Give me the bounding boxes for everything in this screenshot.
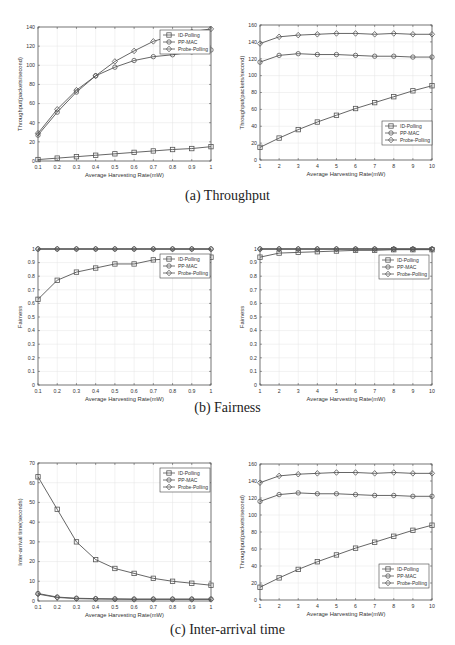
y-tick-label: 0.8 bbox=[28, 273, 35, 279]
x-tick-label: 1 bbox=[259, 603, 262, 609]
y-tick-label: 0.1 bbox=[28, 368, 35, 374]
y-tick-label: 100 bbox=[248, 72, 257, 78]
x-tick-label: 2 bbox=[278, 388, 281, 394]
x-tick-label: 0.6 bbox=[131, 388, 138, 394]
x-tick-label: 4 bbox=[316, 388, 319, 394]
x-tick-label: 3 bbox=[297, 163, 300, 169]
legend-label: ID-Polling bbox=[397, 257, 419, 263]
chart-a-right: 12345678910020406080100120140160Average … bbox=[239, 22, 435, 177]
legend-label: Probe-Polling bbox=[400, 137, 430, 143]
x-tick-label: 7 bbox=[373, 163, 376, 169]
x-tick-label: 7 bbox=[373, 388, 376, 394]
y-tick-label: 160 bbox=[248, 22, 257, 28]
y-tick-label: 0.9 bbox=[250, 259, 257, 265]
x-tick-label: 1 bbox=[259, 163, 262, 169]
legend-label: PP-MAC bbox=[178, 263, 198, 269]
chart-b-left: 0.10.20.30.40.50.60.70.80.9100.10.20.30.… bbox=[17, 246, 214, 402]
x-tick-label: 0.3 bbox=[73, 604, 80, 610]
x-tick-label: 0.5 bbox=[111, 388, 118, 394]
y-tick-label: 120 bbox=[248, 56, 257, 62]
y-tick-label: 0.7 bbox=[28, 287, 35, 293]
x-tick-label: 3 bbox=[297, 603, 300, 609]
x-tick-label: 8 bbox=[392, 388, 395, 394]
x-tick-label: 6 bbox=[354, 603, 357, 609]
y-tick-label: 30 bbox=[29, 539, 35, 545]
x-axis-label: Average Harvesting Rate(mW) bbox=[85, 172, 164, 178]
y-tick-label: 0.5 bbox=[250, 314, 257, 320]
x-tick-label: 5 bbox=[335, 163, 338, 169]
caption-inter-arrival: (c) Inter-arrival time bbox=[0, 622, 455, 638]
y-tick-label: 70 bbox=[29, 460, 35, 466]
x-tick-label: 0.9 bbox=[188, 164, 195, 170]
y-tick-label: 50 bbox=[29, 499, 35, 505]
x-tick-label: 0.2 bbox=[54, 388, 61, 394]
x-tick-label: 0.1 bbox=[34, 164, 41, 170]
x-tick-label: 0.1 bbox=[34, 388, 41, 394]
y-tick-label: 0 bbox=[254, 157, 257, 163]
y-axis-label: Fairness bbox=[239, 306, 245, 328]
y-tick-label: 0 bbox=[32, 382, 35, 388]
legend-label: PP-MAC bbox=[178, 39, 198, 45]
y-tick-label: 1 bbox=[254, 246, 257, 252]
y-tick-label: 40 bbox=[251, 563, 257, 569]
y-tick-label: 0 bbox=[32, 598, 35, 604]
y-tick-label: 0.3 bbox=[250, 341, 257, 347]
chart-c-left: 0.10.20.30.40.50.60.70.80.91010203040506… bbox=[17, 460, 214, 618]
x-tick-label: 3 bbox=[297, 388, 300, 394]
x-tick-label: 0.1 bbox=[34, 604, 41, 610]
caption-throughput: (a) Throughput bbox=[0, 188, 455, 204]
x-tick-label: 0.5 bbox=[111, 164, 118, 170]
x-tick-label: 6 bbox=[354, 388, 357, 394]
y-tick-label: 10 bbox=[29, 578, 35, 584]
chart-b-right: 1234567891000.10.20.30.40.50.60.70.80.91… bbox=[239, 246, 435, 402]
x-tick-label: 8 bbox=[392, 163, 395, 169]
x-tick-label: 0.8 bbox=[169, 604, 176, 610]
y-tick-label: 0.2 bbox=[250, 355, 257, 361]
x-axis-label: Average Harvesting Rate(mW) bbox=[307, 171, 386, 177]
x-tick-label: 1 bbox=[210, 388, 213, 394]
y-axis-label: Fairness bbox=[17, 306, 23, 328]
legend-label: Probe-Polling bbox=[178, 484, 208, 490]
y-tick-label: 0.4 bbox=[250, 327, 257, 333]
legend-label: Probe-Polling bbox=[397, 271, 427, 277]
y-tick-label: 0.8 bbox=[250, 273, 257, 279]
y-tick-label: 20 bbox=[29, 558, 35, 564]
x-axis-label: Average Harvesting Rate(mW) bbox=[85, 612, 164, 618]
x-tick-label: 8 bbox=[392, 603, 395, 609]
y-tick-label: 120 bbox=[26, 43, 35, 49]
legend: ID-PollingPP-MACProbe-Polling bbox=[382, 121, 432, 145]
legend-label: PP-MAC bbox=[178, 477, 198, 483]
y-tick-label: 40 bbox=[29, 519, 35, 525]
chart-a-left: 0.10.20.30.40.50.60.70.80.91020406080100… bbox=[17, 24, 214, 178]
x-tick-label: 0.4 bbox=[92, 388, 99, 394]
x-tick-label: 0.5 bbox=[111, 604, 118, 610]
legend: ID-PollingPP-MACProbe-Polling bbox=[160, 468, 210, 492]
y-tick-label: 0 bbox=[254, 597, 257, 603]
y-axis-label: Throughput(packets/second) bbox=[239, 495, 245, 569]
x-tick-label: 9 bbox=[411, 603, 414, 609]
x-tick-label: 0.8 bbox=[169, 164, 176, 170]
y-axis-label: Inter-arrival time(seconds) bbox=[17, 498, 23, 565]
legend: ID-PollingPP-MACProbe-Polling bbox=[379, 255, 429, 279]
x-tick-label: 1 bbox=[259, 388, 262, 394]
y-tick-label: 20 bbox=[251, 140, 257, 146]
y-tick-label: 0.7 bbox=[250, 287, 257, 293]
y-tick-label: 40 bbox=[251, 123, 257, 129]
x-tick-label: 5 bbox=[335, 388, 338, 394]
x-tick-label: 10 bbox=[429, 388, 435, 394]
y-tick-label: 0.1 bbox=[250, 368, 257, 374]
y-axis-label: Throughput(packets/second) bbox=[17, 57, 23, 131]
x-tick-label: 9 bbox=[411, 388, 414, 394]
x-tick-label: 0.7 bbox=[150, 388, 157, 394]
y-tick-label: 60 bbox=[251, 106, 257, 112]
x-tick-label: 0.3 bbox=[73, 388, 80, 394]
y-tick-label: 140 bbox=[248, 478, 257, 484]
x-tick-label: 0.4 bbox=[92, 604, 99, 610]
x-tick-label: 9 bbox=[411, 163, 414, 169]
legend-label: PP-MAC bbox=[400, 130, 420, 136]
x-tick-label: 10 bbox=[429, 163, 435, 169]
y-tick-label: 160 bbox=[248, 461, 257, 467]
y-tick-label: 0 bbox=[254, 382, 257, 388]
x-tick-label: 10 bbox=[429, 603, 435, 609]
legend-label: ID-Polling bbox=[178, 256, 200, 262]
